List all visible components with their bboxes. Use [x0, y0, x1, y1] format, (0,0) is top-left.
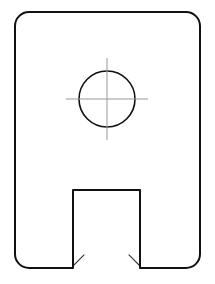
technical-drawing-section-view: Sectioned bracket plate with bore and bo…	[0, 0, 215, 284]
